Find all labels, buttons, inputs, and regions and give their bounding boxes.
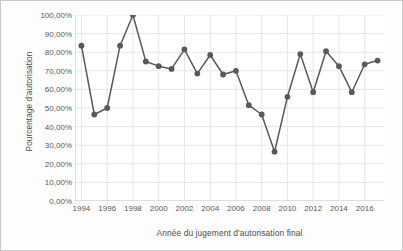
line-chart-svg (75, 15, 384, 201)
x-axis-tick-label: 2004 (201, 204, 219, 213)
data-point (310, 89, 316, 95)
x-axis-tick-label: 2012 (304, 204, 322, 213)
data-point (233, 68, 239, 74)
data-point (207, 52, 213, 58)
y-axis-tick-label: 70,00% (9, 66, 72, 75)
data-point (220, 72, 226, 78)
data-point (259, 112, 265, 118)
data-point (272, 149, 278, 155)
x-axis-tick-label: 2008 (253, 204, 271, 213)
data-point (194, 71, 200, 77)
x-axis-tick-label: 2000 (150, 204, 168, 213)
y-axis-tick-label: 0,00% (9, 197, 72, 206)
x-axis-tick-label: 2014 (330, 204, 348, 213)
data-point (91, 112, 97, 118)
y-axis-tick-label: 40,00% (9, 122, 72, 131)
data-point (375, 58, 381, 64)
data-point (246, 102, 252, 108)
y-axis-tick-label: 50,00% (9, 104, 72, 113)
y-axis-tick-label: 80,00% (9, 48, 72, 57)
x-axis-tick-labels: 1994199619982000200220042006200820102012… (75, 204, 384, 218)
data-point (285, 94, 291, 100)
y-axis-tick-labels: 0,00%10,00%20,00%30,00%40,00%50,00%60,00… (9, 15, 72, 201)
data-point (182, 47, 188, 53)
y-axis-tick-label: 60,00% (9, 85, 72, 94)
data-point (117, 43, 123, 49)
data-point (297, 51, 303, 57)
x-axis-tick-label: 2006 (227, 204, 245, 213)
y-axis-tick-label: 100,00% (9, 11, 72, 20)
x-axis-tick-label: 2016 (356, 204, 374, 213)
data-point (143, 59, 149, 65)
y-axis-tick-label: 20,00% (9, 159, 72, 168)
data-point (323, 48, 329, 54)
data-point (156, 63, 162, 69)
data-point (79, 43, 85, 49)
x-axis-title: Année du jugement d'autorisation final (75, 228, 384, 238)
x-axis-tick-label: 1996 (98, 204, 116, 213)
data-point (104, 105, 110, 111)
data-point (169, 66, 175, 72)
data-point (336, 63, 342, 69)
plot-area (75, 15, 384, 201)
x-axis-tick-label: 2002 (175, 204, 193, 213)
y-axis-tick-label: 90,00% (9, 29, 72, 38)
y-axis-tick-label: 30,00% (9, 141, 72, 150)
x-axis-tick-label: 1994 (72, 204, 90, 213)
x-axis-tick-label: 2010 (278, 204, 296, 213)
data-point (362, 61, 368, 67)
chart-figure: Pourcentage d'autorisation 0,00%10,00%20… (0, 0, 403, 251)
data-point (349, 89, 355, 95)
x-axis-tick-label: 1998 (124, 204, 142, 213)
y-axis-tick-label: 10,00% (9, 178, 72, 187)
